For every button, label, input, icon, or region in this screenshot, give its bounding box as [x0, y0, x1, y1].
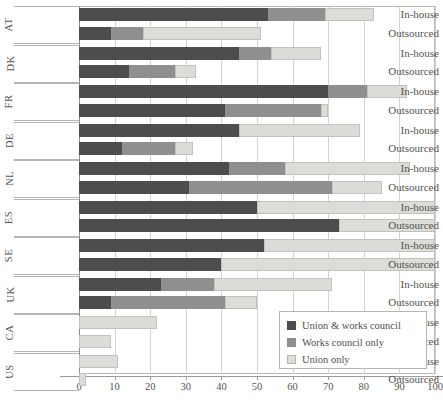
bar-segment [79, 142, 122, 155]
bar-segment [225, 104, 321, 117]
bar-segment [79, 219, 339, 232]
bar-segment [225, 296, 257, 309]
country-label-UK: UK [2, 289, 16, 300]
country-label-AT: AT [2, 19, 16, 30]
legend-swatch-icon [287, 338, 296, 347]
row-label-FR-outsourced: Outsourced [381, 104, 443, 117]
country-label-DK: DK [2, 58, 16, 69]
bar-segment [79, 27, 111, 40]
row-rule [14, 160, 79, 161]
bar-segment [79, 278, 161, 291]
legend-item: Works council only [287, 334, 420, 351]
bar-segment [79, 124, 239, 137]
bar-segment [189, 181, 331, 194]
row-label-DK-outsourced: Outsourced [381, 65, 443, 78]
bar-segment [239, 47, 271, 60]
legend-swatch-icon [287, 355, 296, 364]
country-label-ES: ES [2, 212, 16, 223]
row-label-AT-outsourced: Outsourced [381, 27, 443, 40]
row-rule [14, 45, 79, 46]
row-label-US-outsourced: Outsourced [381, 373, 443, 386]
row-label-DK-in-house: In-house [381, 47, 443, 60]
bar-segment [328, 85, 367, 98]
bar-segment [79, 47, 239, 60]
row-label-UK-outsourced: Outsourced [381, 296, 443, 309]
bar-segment [79, 181, 189, 194]
bar-segment [268, 8, 325, 21]
bar-segment [271, 47, 321, 60]
row-label-DE-in-house: In-house [381, 124, 443, 137]
country-label-FR: FR [2, 96, 16, 107]
row-rule [14, 276, 79, 277]
country-label-SE: SE [2, 250, 16, 261]
country-label-NL: NL [2, 173, 16, 184]
bar-segment [143, 27, 260, 40]
legend-item: Union only [287, 351, 420, 368]
bar-segment [79, 201, 257, 214]
bar-segment [79, 296, 111, 309]
bar-segment [79, 104, 225, 117]
bar-segment [214, 278, 331, 291]
legend-label: Works council only [302, 337, 384, 349]
bar-segment [111, 296, 225, 309]
row-label-DE-outsourced: Outsourced [381, 142, 443, 155]
row-label-SE-outsourced: Outsourced [381, 258, 443, 271]
row-label-NL-outsourced: Outsourced [381, 181, 443, 194]
bar-segment [325, 8, 375, 21]
bar-segment [79, 8, 268, 21]
chart-legend: Union & works councilWorks council onlyU… [279, 311, 427, 369]
bar-segment [79, 239, 264, 252]
bar-segment [122, 142, 175, 155]
stacked-bar-chart: 0102030405060708090100 In-houseATOutsour… [0, 0, 443, 410]
row-rule [14, 353, 79, 354]
row-label-ES-in-house: In-house [381, 201, 443, 214]
bar-segment [321, 104, 328, 117]
row-rule [14, 83, 79, 84]
legend-item: Union & works council [287, 317, 420, 334]
row-label-FR-in-house: In-house [381, 85, 443, 98]
legend-label: Union & works council [302, 320, 401, 332]
bar-segment [79, 162, 229, 175]
bar-segment [79, 258, 221, 271]
bar-segment [161, 278, 214, 291]
bar-segment [79, 355, 118, 368]
bar-segment [129, 65, 175, 78]
bar-segment [239, 124, 360, 137]
row-label-NL-in-house: In-house [381, 162, 443, 175]
bar-segment [175, 65, 196, 78]
row-rule [14, 237, 79, 238]
bar-segment [175, 142, 193, 155]
row-label-ES-outsourced: Outsourced [381, 219, 443, 232]
legend-swatch-icon [287, 321, 296, 330]
country-label-CA: CA [2, 327, 16, 338]
bar-segment [111, 27, 143, 40]
legend-label: Union only [302, 354, 350, 366]
row-label-UK-in-house: In-house [381, 278, 443, 291]
bar-segment [79, 373, 86, 386]
bar-segment [79, 85, 328, 98]
row-rule [14, 199, 79, 200]
country-label-DE: DE [2, 135, 16, 146]
row-label-SE-in-house: In-house [381, 239, 443, 252]
bar-segment [229, 162, 286, 175]
bar-segment [79, 65, 129, 78]
row-rule [14, 6, 79, 7]
bar-segment [79, 335, 111, 348]
row-rule [14, 314, 79, 315]
row-rule [14, 122, 79, 123]
bar-segment [79, 316, 157, 329]
bar-segment [332, 181, 382, 194]
country-label-US: US [2, 366, 16, 377]
row-label-AT-in-house: In-house [381, 8, 443, 21]
row-rule [14, 390, 79, 391]
